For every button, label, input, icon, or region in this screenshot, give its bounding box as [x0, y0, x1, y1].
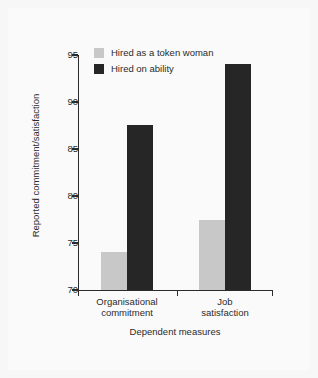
- bar: [199, 220, 225, 291]
- chart-legend: Hired as a token woman Hired on ability: [94, 46, 213, 78]
- y-axis-tick-label: 80: [52, 191, 78, 201]
- legend-label-ability: Hired on ability: [111, 64, 174, 74]
- bar: [225, 64, 251, 290]
- y-axis-tick-label: 95: [52, 50, 78, 60]
- legend-item-token: Hired as a token woman: [94, 46, 213, 60]
- bar: [101, 252, 127, 290]
- chart-figure: 707580859095 Organisational commitmentJo…: [0, 0, 318, 378]
- bar: [127, 125, 153, 290]
- y-axis-title: Reported commitment/satisfaction: [30, 76, 41, 256]
- x-axis-tick-left: [78, 290, 79, 296]
- legend-swatch-icon-ability: [94, 64, 104, 74]
- plot-area: 707580859095 Organisational commitmentJo…: [0, 0, 318, 378]
- y-axis-tick-label: 90: [52, 97, 78, 107]
- x-axis-category-label: Job satisfaction: [165, 297, 285, 319]
- x-axis-line: [78, 290, 272, 291]
- x-axis-tick-right: [272, 290, 273, 296]
- x-axis-title: Dependent measures: [78, 326, 272, 337]
- legend-label-token: Hired as a token woman: [111, 48, 213, 58]
- y-axis-line: [78, 55, 79, 291]
- legend-swatch-icon-token: [94, 48, 104, 58]
- y-axis-tick-label: 70: [52, 285, 78, 295]
- y-axis-tick-label: 75: [52, 238, 78, 248]
- y-axis-tick-label: 85: [52, 144, 78, 154]
- x-axis-tick-center: [177, 290, 178, 296]
- legend-item-ability: Hired on ability: [94, 62, 213, 76]
